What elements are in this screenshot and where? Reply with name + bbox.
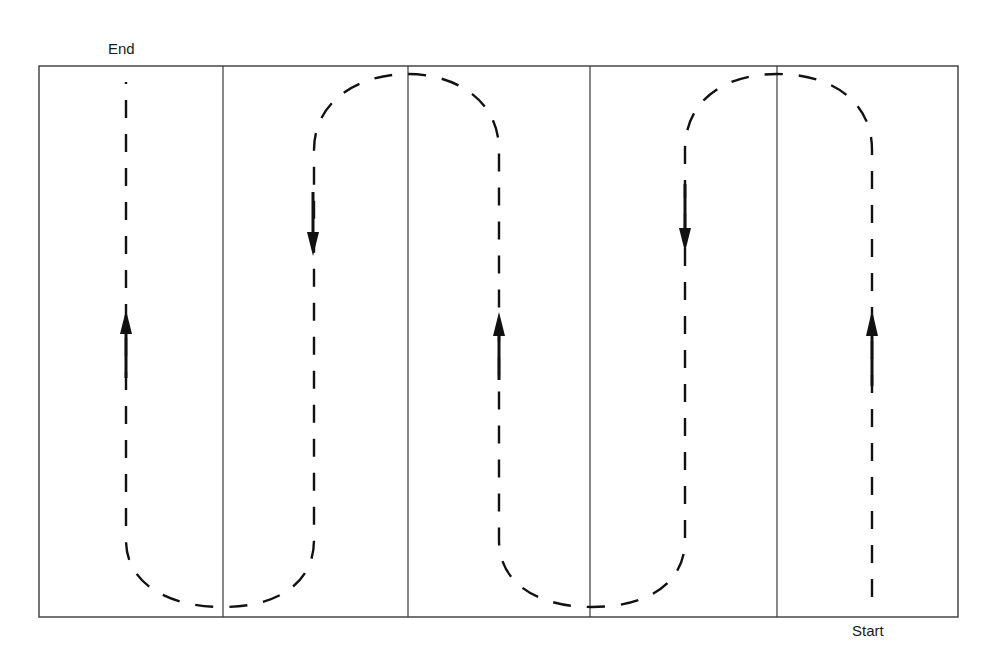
end-label: End [108,40,135,57]
arrow-down-icon [679,184,691,252]
arrow-up-icon [866,310,878,386]
arrow-up-icon [120,310,132,378]
arrow-up-icon [493,312,505,380]
serpentine-diagram [0,0,989,671]
arrow-down-icon [307,192,319,256]
start-label: Start [852,622,884,639]
